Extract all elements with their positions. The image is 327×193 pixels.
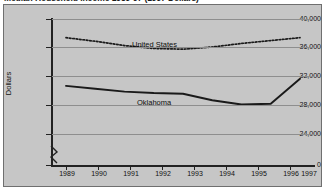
x-tick-label-1993: 1993 — [180, 170, 210, 177]
x-tick-label-1994: 1994 — [212, 170, 242, 177]
x-axis-line — [51, 165, 315, 167]
x-tick-label-1995: 1995 — [244, 170, 274, 177]
chart-title: Median Household Income 1989-97 (1997 Do… — [4, 0, 304, 3]
series-label-united-states: United States — [132, 40, 177, 49]
gridline-36000 — [52, 47, 314, 48]
gridline-28000 — [52, 105, 314, 106]
series-plot — [52, 19, 314, 165]
chart-panel: Dollars 40,000 36,000 32,000 28,000 24,0… — [3, 4, 322, 187]
gridline-40000 — [52, 19, 314, 20]
plot-area: United States Oklahoma — [52, 19, 314, 165]
y-axis-label: Dollars — [4, 72, 13, 95]
chart-figure: Median Household Income 1989-97 (1997 Do… — [0, 0, 327, 193]
x-tick-label-1990: 1990 — [84, 170, 114, 177]
gridline-32000 — [52, 76, 314, 77]
x-tick-label-1991: 1991 — [116, 170, 146, 177]
series-line-oklahoma — [66, 79, 300, 105]
gridline-24000 — [52, 134, 314, 135]
x-tick-label-1989: 1989 — [52, 170, 82, 177]
x-tick-label-1992: 1992 — [148, 170, 178, 177]
series-label-oklahoma: Oklahoma — [137, 98, 171, 107]
x-tick-label-1997: 1997 — [294, 170, 324, 177]
